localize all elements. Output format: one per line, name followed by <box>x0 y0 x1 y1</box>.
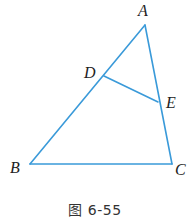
triangle-diagram <box>0 0 190 222</box>
label-point-d: D <box>84 65 96 81</box>
label-vertex-c: C <box>175 162 186 178</box>
figure-caption: 图 6-55 <box>0 199 190 219</box>
segment-ab <box>30 25 145 164</box>
label-point-e: E <box>166 95 176 111</box>
label-vertex-b: B <box>10 160 20 176</box>
label-vertex-a: A <box>138 3 148 19</box>
segment-de <box>104 76 158 102</box>
